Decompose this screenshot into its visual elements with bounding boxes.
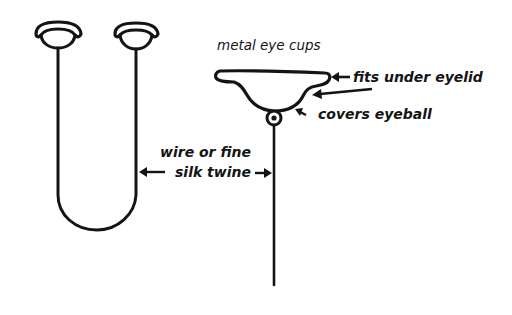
u-shaped-wire: [58, 48, 136, 230]
eye-cup-left-icon: [36, 22, 81, 48]
arrow-wire-right-icon: [255, 168, 272, 178]
eye-cup-profile-icon: [216, 71, 330, 111]
arrow-fits-under-eyelid-icon: [331, 72, 350, 82]
label-wire-line1: wire or fine: [160, 144, 251, 160]
label-wire-line2: silk twine: [175, 164, 251, 180]
eye-cup-diagram: metal eye cups fits under eyelid covers …: [0, 0, 512, 315]
eye-cup-right-icon: [115, 23, 158, 49]
arrow-covers-eyeball-icon: [295, 108, 306, 116]
left-eye-cup-pair: [36, 22, 158, 230]
label-fits-under-eyelid: fits under eyelid: [353, 69, 483, 85]
label-metal-eye-cups: metal eye cups: [217, 37, 321, 53]
label-covers-eyeball: covers eyeball: [318, 106, 432, 122]
pivot-dot-icon: [271, 115, 276, 120]
arrow-cup-side-icon: [312, 89, 372, 99]
arrow-wire-left-icon: [139, 167, 165, 177]
annotation-arrows: [139, 72, 372, 178]
